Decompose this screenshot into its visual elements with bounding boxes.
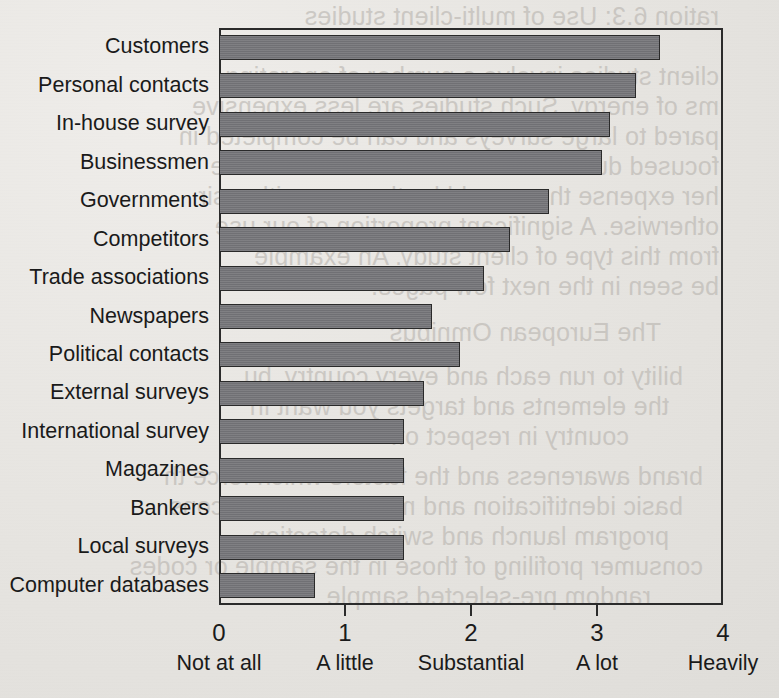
- bar: [219, 112, 610, 137]
- bar: [219, 573, 315, 598]
- bar: [219, 419, 404, 444]
- x-axis-tick-number: 3: [557, 621, 637, 645]
- category-label: Competitors: [93, 229, 209, 251]
- category-label: International survey: [21, 421, 209, 443]
- category-label: Magazines: [105, 459, 209, 481]
- category-label: External surveys: [50, 382, 209, 404]
- category-label: Personal contacts: [38, 75, 209, 97]
- bar: [219, 496, 404, 521]
- x-axis-tick-number: 0: [179, 621, 259, 645]
- scanned-page-background: ration 6.3: Use of multi-client studiesc…: [0, 0, 779, 698]
- category-label: Newspapers: [90, 306, 210, 328]
- category-label: Businessmen: [80, 152, 209, 174]
- x-axis-tick: [470, 605, 472, 616]
- bar: [219, 189, 549, 214]
- x-axis-tick: [596, 605, 598, 616]
- horizontal-bar-chart: CustomersPersonal contactsIn-house surve…: [0, 0, 779, 698]
- bar: [219, 73, 636, 98]
- bar: [219, 35, 660, 60]
- bar: [219, 381, 424, 406]
- category-label: In-house survey: [56, 113, 209, 135]
- category-label: Political contacts: [49, 344, 209, 366]
- x-axis-tick: [344, 605, 346, 616]
- category-label: Trade associations: [29, 267, 209, 289]
- bar: [219, 342, 460, 367]
- bar: [219, 304, 432, 329]
- category-label: Computer databases: [9, 575, 209, 597]
- bar: [219, 266, 484, 291]
- bar: [219, 535, 404, 560]
- x-axis-tick-number: 1: [305, 621, 385, 645]
- category-label: Local surveys: [78, 536, 209, 558]
- category-label: Governments: [80, 190, 209, 212]
- x-axis-tick-word: Heavily: [633, 653, 779, 675]
- bar: [219, 458, 404, 483]
- category-label: Bankers: [130, 498, 209, 520]
- bar: [219, 227, 510, 252]
- x-axis-tick-number: 2: [431, 621, 511, 645]
- category-label: Customers: [105, 36, 209, 58]
- x-axis-tick-number: 4: [683, 621, 763, 645]
- bar: [219, 150, 602, 175]
